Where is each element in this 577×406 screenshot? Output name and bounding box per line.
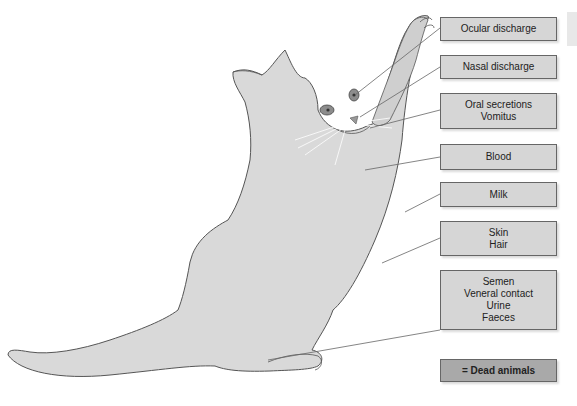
label-skin-hair: Skin Hair bbox=[440, 221, 557, 256]
label-milk: Milk bbox=[440, 182, 557, 207]
label-text: Hair bbox=[489, 239, 507, 251]
label-text: Urine bbox=[487, 300, 511, 312]
label-text: Faeces bbox=[482, 312, 515, 324]
label-ocular-discharge: Ocular discharge bbox=[440, 17, 557, 41]
label-text: Semen bbox=[483, 276, 515, 288]
label-text: Nasal discharge bbox=[463, 61, 535, 73]
cat-body bbox=[8, 16, 428, 377]
label-text: Ocular discharge bbox=[461, 23, 537, 35]
cropped-edge-box bbox=[567, 12, 577, 46]
label-oral-secretions-vomitus: Oral secretions Vomitus bbox=[440, 93, 557, 129]
label-text: Veneral contact bbox=[464, 288, 533, 300]
cat-nose bbox=[350, 116, 358, 124]
label-text: Blood bbox=[486, 151, 512, 163]
label-blood: Blood bbox=[440, 144, 557, 170]
legend-text: = Dead animals bbox=[462, 365, 535, 377]
label-text: Milk bbox=[490, 189, 508, 201]
label-text: Skin bbox=[489, 227, 508, 239]
label-semen-veneral-urine-faeces: Semen Veneral contact Urine Faeces bbox=[440, 270, 557, 330]
legend-dead-animals: = Dead animals bbox=[440, 359, 557, 382]
diagram-stage: Ocular discharge Nasal discharge Oral se… bbox=[0, 0, 577, 406]
label-text: Oral secretions bbox=[465, 99, 532, 111]
label-nasal-discharge: Nasal discharge bbox=[440, 55, 557, 79]
label-text: Vomitus bbox=[481, 111, 517, 123]
